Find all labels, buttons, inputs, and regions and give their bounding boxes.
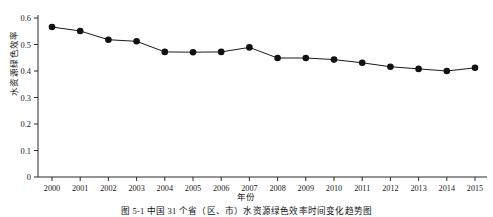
chart-plot-area: 水资源绿色效率 00.10.20.30.40.50.6 200020012002… <box>0 0 493 200</box>
data-point <box>105 36 112 43</box>
data-point <box>77 28 84 35</box>
svg-text:0.2: 0.2 <box>21 120 31 129</box>
y-axis-title: 水资源绿色效率 <box>7 3 19 123</box>
data-point <box>162 49 169 56</box>
data-point <box>331 56 338 63</box>
data-point <box>387 63 394 70</box>
line-chart: 00.10.20.30.40.50.6 20002001200220032004… <box>0 0 493 200</box>
svg-text:0.6: 0.6 <box>21 14 31 23</box>
data-point <box>359 59 366 66</box>
svg-text:0.3: 0.3 <box>21 94 31 103</box>
data-point <box>274 55 281 62</box>
data-point <box>444 68 451 75</box>
data-point <box>246 44 253 51</box>
svg-text:0.1: 0.1 <box>21 147 31 156</box>
svg-text:0.4: 0.4 <box>21 67 32 76</box>
x-axis-title: 年份 <box>0 190 493 202</box>
data-point <box>133 38 140 45</box>
svg-text:0.5: 0.5 <box>21 41 31 50</box>
data-point <box>49 24 56 31</box>
data-point <box>218 49 225 56</box>
svg-text:0: 0 <box>27 173 31 182</box>
series-line <box>52 27 475 71</box>
y-axis-ticks: 00.10.20.30.40.50.6 <box>21 14 38 182</box>
figure-container: 水资源绿色效率 00.10.20.30.40.50.6 200020012002… <box>0 0 493 217</box>
data-point <box>190 49 197 56</box>
data-point <box>415 66 422 73</box>
data-point <box>472 65 479 72</box>
data-point <box>303 55 310 62</box>
figure-caption: 图 5-1 中国 31 个省（区、市）水资源绿色效率时间变化趋势图 <box>0 204 493 216</box>
series-markers <box>49 24 479 75</box>
